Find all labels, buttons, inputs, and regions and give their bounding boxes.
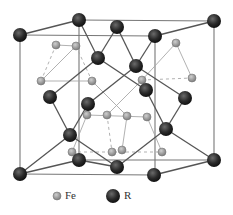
fe-atom [138,76,146,84]
fe-atom [172,39,180,47]
fe-atom [123,112,131,120]
fe-atom [143,113,151,121]
r-atom [81,97,95,111]
fe-bond [142,78,192,80]
fe-bond [87,115,147,117]
r-bond [154,160,214,175]
r-legend-label: R [124,189,131,201]
r-atom [207,14,221,28]
r-atom [43,90,57,104]
r-atom [72,13,86,27]
fe-atom [118,146,126,154]
r-bond [88,66,136,104]
fe-atom [103,111,111,119]
r-bond [20,20,79,35]
fe-atom [72,42,80,50]
r-atom [147,168,161,182]
r-atom [148,29,162,43]
fe-atom [37,77,45,85]
fe-atom [188,74,196,82]
r-atoms [13,13,221,182]
r-atom [13,167,27,181]
fe-bond [41,46,76,81]
legend [53,189,120,203]
fe-bond [122,116,127,150]
fe-bond [176,43,192,78]
r-atom [72,153,86,167]
fe-atom [108,148,116,156]
fe-bond [76,46,92,81]
fe-atom [88,77,96,85]
r-atom [129,59,143,73]
r-atom [63,128,77,142]
fe-legend-label: Fe [65,189,76,201]
fe-atom [52,41,60,49]
fe-bond [41,45,56,81]
r-atom [159,122,173,136]
crystal-structure-diagram [0,0,233,215]
cell-edge [79,20,214,21]
fe-bond [107,115,112,152]
r-atom [110,160,124,174]
fe-atom [158,148,166,156]
r-atom [207,153,221,167]
cell-edge [20,174,155,175]
r-atom [110,20,124,34]
r-atom [13,28,27,42]
r-atom [178,91,192,105]
r-bond [166,129,214,160]
r-atom [139,83,153,97]
fe-legend-icon [53,192,61,200]
fe-atom [83,111,91,119]
r-atom [91,51,105,65]
r-bond [155,21,214,36]
r-legend-icon [106,189,120,203]
fe-atoms [37,39,196,156]
